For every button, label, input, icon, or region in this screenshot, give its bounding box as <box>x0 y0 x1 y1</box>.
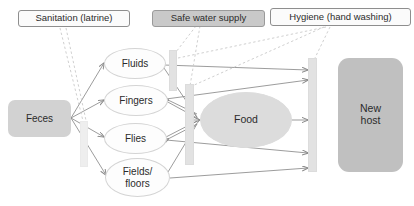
node-fluids[interactable]: Fluids <box>104 48 166 79</box>
intervention-sanitation[interactable]: Sanitation (latrine) <box>18 10 130 27</box>
node-new-host-label-line2: host <box>361 115 381 127</box>
node-fingers[interactable]: Fingers <box>104 85 168 116</box>
node-feces[interactable]: Feces <box>8 100 71 137</box>
intervention-sanitation-label: Sanitation (latrine) <box>35 13 112 23</box>
node-food[interactable]: Food <box>200 92 292 148</box>
intervention-hygiene[interactable]: Hygiene (hand washing) <box>270 8 411 26</box>
node-fields-floors[interactable]: Fields/ floors <box>105 158 170 197</box>
node-fingers-label: Fingers <box>119 95 152 106</box>
node-new-host-label-line1: New <box>360 103 381 115</box>
intervention-hygiene-label: Hygiene (hand washing) <box>289 12 391 22</box>
dashed-water-to-fluids-barrier <box>176 26 196 52</box>
dashed-hygiene-to-food-barrier <box>192 27 324 86</box>
arrow-fields-to-host <box>170 168 308 178</box>
node-fields-floors-label-line1: Fields/ <box>123 166 152 177</box>
dashed-hygiene-to-host-barrier <box>314 27 330 60</box>
arrow-feces-to-fields <box>71 118 106 175</box>
node-new-host[interactable]: New host <box>338 58 403 172</box>
node-food-label: Food <box>234 114 258 126</box>
node-fluids-label: Fluids <box>122 58 149 69</box>
barrier-water-fluids <box>169 50 177 91</box>
f-diagram-canvas: Sanitation (latrine) Safe water supply H… <box>0 0 414 206</box>
intervention-safe-water-label: Safe water supply <box>171 13 247 23</box>
barrier-food <box>185 84 194 165</box>
intervention-safe-water[interactable]: Safe water supply <box>152 10 265 27</box>
barrier-hygiene-host <box>308 58 317 172</box>
dashed-hygiene-to-fluids-barrier <box>178 27 326 58</box>
node-flies-label: Flies <box>125 133 146 144</box>
arrow-fluids-to-host <box>164 65 308 70</box>
node-feces-label: Feces <box>26 113 53 124</box>
arrow-feces-to-fluids <box>71 63 104 118</box>
dashed-water-to-food-barrier <box>190 26 200 86</box>
barrier-sanitation <box>80 121 88 167</box>
node-fields-floors-label-line2: floors <box>125 178 149 189</box>
node-flies[interactable]: Flies <box>104 123 167 154</box>
